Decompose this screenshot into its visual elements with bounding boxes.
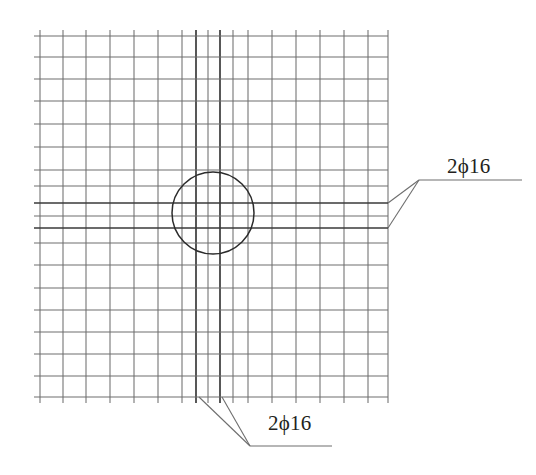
- annotation-bottom-label: 2ϕ16: [268, 411, 311, 436]
- annotation-right-label: 2ϕ16: [447, 154, 490, 179]
- leader-line-bottom-1: [222, 397, 250, 446]
- drawing-page: 2ϕ16 2ϕ16: [0, 0, 536, 475]
- leader-line-bottom-0: [199, 397, 250, 446]
- leader-lines: [199, 180, 522, 446]
- leader-line-right-0: [388, 180, 419, 203]
- grid-horizontal-lines: [34, 36, 388, 397]
- leader-line-right-1: [388, 180, 419, 228]
- opening-circle-outline: [172, 172, 254, 254]
- opening-circle: [172, 172, 254, 254]
- reinforcement-grid-diagram: [0, 0, 536, 475]
